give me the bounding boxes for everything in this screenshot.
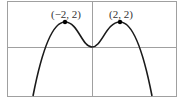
left-peak-dot: [63, 20, 67, 24]
right-peak-label: (2, 2): [109, 9, 133, 20]
left-peak-label: (−2, 2): [51, 9, 81, 20]
graph: [0, 0, 180, 103]
right-peak-dot: [118, 20, 122, 24]
